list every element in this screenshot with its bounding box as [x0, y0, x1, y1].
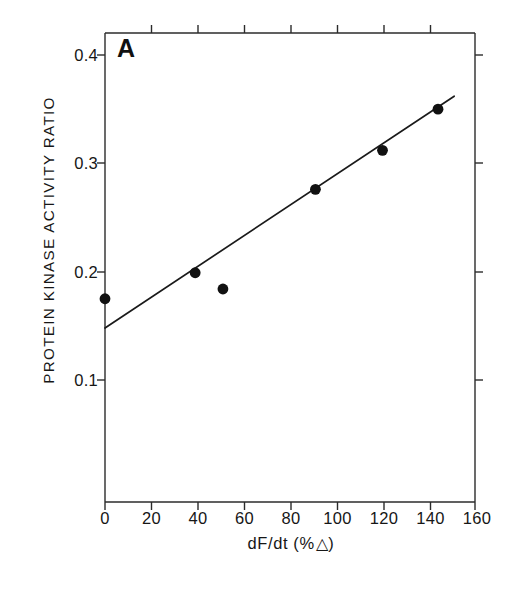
- x-axis-ticks: [105, 502, 475, 510]
- data-point: [100, 293, 111, 304]
- y-axis-ticks: [97, 55, 105, 380]
- data-point: [377, 145, 388, 156]
- data-point-series: [100, 104, 444, 304]
- data-point: [433, 104, 444, 115]
- plot-area: [0, 0, 507, 594]
- y-axis-ticks-right: [475, 55, 483, 380]
- x-axis-ticks-top: [152, 25, 431, 33]
- data-point: [310, 184, 321, 195]
- regression-line: [105, 96, 454, 328]
- data-point: [190, 267, 201, 278]
- figure-panel-a: PROTEIN KINASE ACTIVITY RATIO 0.4 0.3 0.…: [0, 0, 507, 594]
- data-point: [218, 284, 229, 295]
- axis-frame: [105, 33, 475, 502]
